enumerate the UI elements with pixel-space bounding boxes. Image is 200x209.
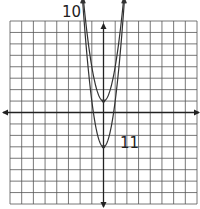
coordinate-plane	[0, 0, 200, 209]
vertex-point-10	[102, 99, 106, 103]
axes	[2, 23, 200, 208]
graph-label-11: 11	[120, 136, 139, 151]
y-axis-up-arrow-icon	[101, 23, 107, 29]
vertex-point-11	[102, 145, 106, 149]
graph-label-10: 10	[62, 5, 81, 20]
y-axis-down-arrow-icon	[101, 202, 107, 208]
x-axis-left-arrow-icon	[2, 110, 8, 116]
